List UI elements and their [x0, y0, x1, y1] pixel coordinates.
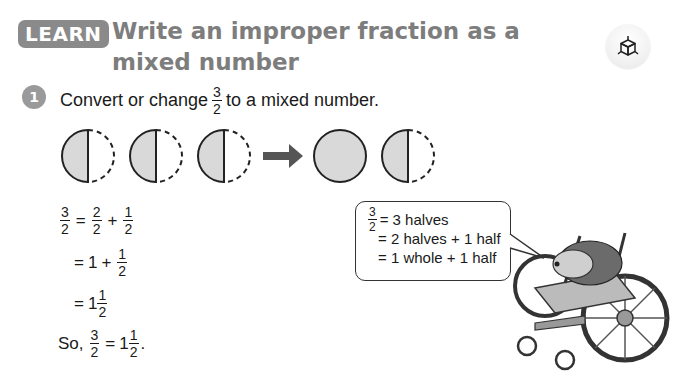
bubble-line-3: = 1 whole + 1 half [378, 249, 496, 266]
prompt-text-before: Convert or change [60, 90, 208, 111]
whole-circle [314, 130, 366, 182]
working-line-1: 32 = 22 + 12 [58, 205, 135, 236]
bubble-line-2: = 2 halves + 1 half [378, 230, 501, 247]
3d-cube-icon [616, 35, 640, 59]
prompt-text-after: to a mixed number. [226, 90, 379, 111]
step-prompt: Convert or change 3 2 to a mixed number. [60, 84, 379, 116]
working-line-2: = 1 + 12 [70, 247, 129, 278]
prompt-fraction: 3 2 [212, 85, 222, 116]
half-circle-1 [62, 130, 114, 182]
working-conclusion: So, 32 = 1 12 . [58, 328, 145, 359]
working-line-3: = 1 12 [70, 288, 109, 319]
half-circle-2 [130, 130, 182, 182]
bubble-fraction: 32 [368, 206, 377, 233]
half-circle-4 [382, 130, 434, 182]
step-number-badge: 1 [22, 85, 46, 109]
speech-bubble: 32 = 3 halves = 2 halves + 1 half = 1 wh… [355, 201, 511, 281]
fraction-circles-diagram [60, 126, 450, 186]
learn-badge: LEARN [18, 20, 109, 48]
bubble-line-1: = 3 halves [380, 211, 449, 228]
hedgehog-wheelchair-illustration [505, 228, 675, 378]
page-title: Write an improper fraction as a mixed nu… [112, 16, 532, 78]
right-arrow-icon [263, 144, 303, 168]
half-circle-3 [198, 130, 250, 182]
3d-model-button[interactable] [606, 25, 650, 69]
